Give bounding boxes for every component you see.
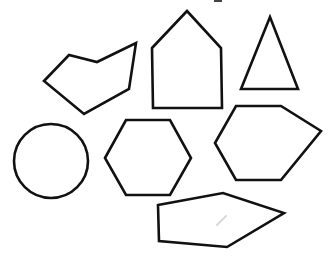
house-pentagon: [152, 11, 222, 108]
irregular-hexagon-right: [215, 106, 321, 180]
top-edge-mark: [214, 0, 222, 2]
irregular-hexagon-left: [44, 43, 136, 114]
triangle: [241, 17, 298, 89]
regular-hexagon: [105, 120, 191, 195]
shapes-diagram: [0, 0, 335, 262]
circle: [14, 124, 88, 198]
